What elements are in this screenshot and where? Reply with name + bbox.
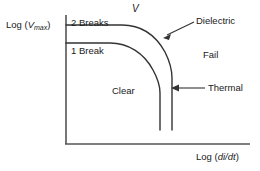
x-axis-label: Log (di/dt)	[196, 152, 239, 162]
thermal-label: Thermal	[208, 83, 243, 93]
x-axis-label-suffix: )	[236, 151, 239, 162]
y-axis-label-prefix: Log (	[6, 19, 28, 30]
voltage-v-label: V	[132, 4, 139, 14]
two-breaks-label: 2 Breaks	[71, 18, 109, 28]
y-axis-label-suffix: )	[47, 19, 50, 30]
y-axis-label-subscript: max	[34, 24, 47, 31]
clear-region-label: Clear	[112, 86, 135, 96]
dielectric-thermal-failure-chart: Log (Vmax) Log (di/dt) 2 Breaks 1 Break …	[0, 0, 260, 171]
y-axis-label: Log (Vmax)	[6, 20, 50, 31]
dielectric-label: Dielectric	[196, 16, 235, 26]
x-axis-label-prefix: Log (	[196, 151, 218, 162]
dielectric-leader-line	[167, 22, 194, 35]
x-axis-label-variable: di/dt	[218, 151, 236, 162]
one-break-label: 1 Break	[71, 46, 104, 56]
fail-region-label: Fail	[203, 50, 218, 60]
voltage-v-glyph: V	[132, 3, 139, 14]
